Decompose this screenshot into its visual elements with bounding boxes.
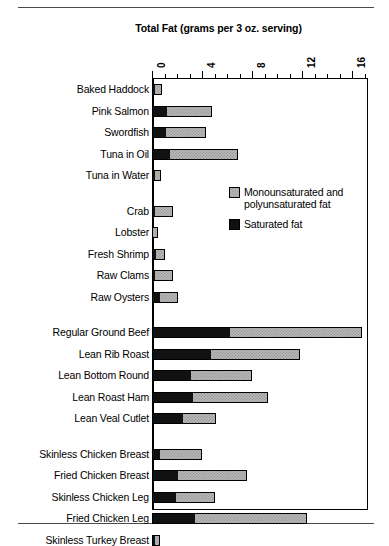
x-tick-label-8: 8 [256, 62, 267, 68]
x-axis-tick-marks [0, 71, 389, 78]
bar-row-label: Tuna in Oil [0, 148, 149, 160]
stacked-bar [152, 327, 362, 338]
legend-swatch-unsaturated-icon [229, 187, 240, 198]
stacked-bar [152, 513, 307, 524]
bar-segment-unsaturated [167, 106, 212, 117]
bar-row-label: Crab [0, 205, 149, 217]
bar-row-label: Baked Haddock [0, 83, 149, 95]
bar-row: Lean Veal Cutlet [0, 413, 389, 424]
x-tick-label-12: 12 [306, 57, 317, 68]
bar-segment-unsaturated [211, 349, 300, 360]
bar-segment-unsaturated [195, 513, 308, 524]
bar-row-label: Fried Chicken Leg [0, 512, 149, 524]
bar-segment-unsaturated [155, 206, 174, 217]
legend-item-unsaturated: Monounsaturated and polyunsaturated fat [229, 186, 379, 210]
bar-segment-saturated [152, 413, 183, 424]
bar-segment-unsaturated [160, 292, 179, 303]
bar-segment-unsaturated [176, 492, 215, 503]
bar-row-label: Skinless Turkey Breast [0, 534, 149, 546]
bar-segment-unsaturated [178, 470, 247, 481]
bar-row: Baked Haddock [0, 84, 389, 95]
stacked-bar [152, 470, 247, 481]
bar-row: Skinless Chicken Breast [0, 449, 389, 460]
bar-segment-saturated [152, 370, 191, 381]
bar-segment-saturated [152, 292, 160, 303]
bar-segment-unsaturated [230, 327, 363, 338]
stacked-bar [152, 106, 212, 117]
stacked-bar [152, 292, 178, 303]
bar-row-label: Lean Bottom Round [0, 369, 149, 381]
bar-segment-saturated [152, 513, 195, 524]
bar-segment-unsaturated [191, 370, 252, 381]
bar-row: Lean Bottom Round [0, 370, 389, 381]
stacked-bar [152, 206, 173, 217]
x-axis-tick-labels: 0481216 [0, 42, 389, 70]
bar-row-label: Lean Veal Cutlet [0, 412, 149, 424]
legend-swatch-saturated-icon [229, 219, 240, 230]
bar-row-label: Lobster [0, 226, 149, 238]
bar-segment-saturated [152, 492, 176, 503]
bar-row: Tuna in Oil [0, 149, 389, 160]
bar-row: Swordfish [0, 127, 389, 138]
stacked-bar [152, 392, 268, 403]
bar-segment-saturated [152, 106, 167, 117]
bar-row-label: Fried Chicken Breast [0, 469, 149, 481]
legend-label-unsaturated: Monounsaturated and polyunsaturated fat [244, 186, 379, 210]
x-tick-4 [202, 71, 203, 78]
bar-row-label: Skinless Chicken Breast [0, 448, 149, 460]
bar-row: Fried Chicken Breast [0, 470, 389, 481]
stacked-bar [152, 535, 160, 546]
bar-row: Raw Oysters [0, 292, 389, 303]
chart-title: Total Fat (grams per 3 oz. serving) [0, 22, 389, 34]
bar-segment-unsaturated [153, 227, 158, 238]
bar-segment-unsaturated [160, 449, 203, 460]
bar-row-label: Swordfish [0, 126, 149, 138]
bar-segment-unsaturated [183, 413, 216, 424]
bar-row: Pink Salmon [0, 106, 389, 117]
bar-row: Fresh Shrimp [0, 249, 389, 260]
bar-segment-unsaturated [156, 249, 165, 260]
bar-row-label: Regular Ground Beef [0, 326, 149, 338]
bar-row-label: Lean Rib Roast [0, 348, 149, 360]
bar-segment-saturated [152, 349, 211, 360]
bar-row: Regular Ground Beef [0, 327, 389, 338]
bar-segment-saturated [152, 127, 166, 138]
x-tick-label-4: 4 [206, 62, 217, 68]
bar-row-label: Skinless Chicken Leg [0, 491, 149, 503]
bar-segment-unsaturated [193, 392, 268, 403]
stacked-bar [152, 84, 162, 95]
bar-row-label: Lean Roast Ham [0, 391, 149, 403]
bar-row-label: Raw Clams [0, 269, 149, 281]
bar-row: Tuna in Water [0, 170, 389, 181]
x-tick-16 [352, 71, 353, 78]
bar-row: Raw Clams [0, 270, 389, 281]
bar-segment-saturated [152, 327, 230, 338]
stacked-bar [152, 170, 161, 181]
x-tick-label-0: 0 [156, 62, 167, 68]
x-tick-label-16: 16 [356, 57, 367, 68]
bar-row: Skinless Turkey Breast [0, 535, 389, 546]
bar-segment-saturated [152, 392, 193, 403]
bar-segment-unsaturated [155, 84, 163, 95]
legend-label-saturated: Saturated fat [244, 218, 302, 230]
stacked-bar [152, 370, 252, 381]
bar-row-label: Raw Oysters [0, 291, 149, 303]
x-tick-0 [152, 71, 153, 78]
bar-segment-saturated [152, 470, 178, 481]
bar-row: Skinless Chicken Leg [0, 492, 389, 503]
stacked-bar [152, 249, 165, 260]
stacked-bar [152, 227, 158, 238]
bar-segment-unsaturated [155, 170, 161, 181]
bar-row-label: Tuna in Water [0, 169, 149, 181]
stacked-bar [152, 413, 216, 424]
stacked-bar [152, 127, 206, 138]
x-tick-12 [302, 71, 303, 78]
bar-row-label: Fresh Shrimp [0, 248, 149, 260]
bar-row: Lean Rib Roast [0, 349, 389, 360]
bar-segment-unsaturated [170, 149, 239, 160]
bar-segment-unsaturated [166, 127, 206, 138]
bar-row-label: Pink Salmon [0, 105, 149, 117]
stacked-bar [152, 449, 202, 460]
bar-row: Fried Chicken Leg [0, 513, 389, 524]
